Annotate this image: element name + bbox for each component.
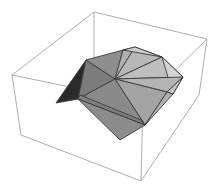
polyhedron [56,47,183,140]
box-edge-top-right-to-bottom-right [199,39,207,95]
box-edge-top-left-to-bottom-left [12,75,21,135]
graphics-3d-canvas [0,0,218,195]
polyhedron-plot [0,0,218,195]
box-edge-top-back-to-top-right [94,12,207,39]
box-edge-bottom-left-to-bottom-front [21,135,141,181]
